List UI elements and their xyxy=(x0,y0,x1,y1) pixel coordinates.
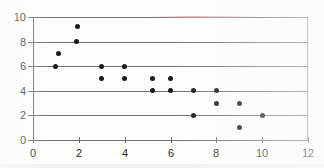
x-tick-2 xyxy=(79,137,80,143)
x-tick-12 xyxy=(308,137,309,143)
data-point xyxy=(214,101,219,106)
data-point xyxy=(260,113,265,118)
y-tick-2 xyxy=(28,115,34,116)
data-point xyxy=(150,76,155,81)
y-tick-label-6: 6 xyxy=(2,61,26,72)
y-tick-8 xyxy=(28,42,34,43)
x-axis-line xyxy=(30,140,309,141)
scatter-plot-figure: 0246810 024681012 xyxy=(0,0,324,168)
x-tick-10 xyxy=(262,137,263,143)
data-point xyxy=(122,64,127,69)
x-tick-label-0: 0 xyxy=(20,148,46,159)
x-tick-4 xyxy=(125,137,126,143)
x-tick-label-12: 12 xyxy=(295,148,321,159)
y-axis-line xyxy=(33,17,34,143)
data-point xyxy=(168,76,173,81)
x-tick-8 xyxy=(216,137,217,143)
y-tick-6 xyxy=(28,66,34,67)
y-tick-label-10: 10 xyxy=(2,12,26,23)
data-point xyxy=(237,101,242,106)
gridline-y-6 xyxy=(33,66,308,67)
x-tick-label-10: 10 xyxy=(249,148,275,159)
x-tick-label-2: 2 xyxy=(66,148,92,159)
data-point xyxy=(237,125,242,130)
gridline-y-10 xyxy=(33,17,308,18)
gridline-y-2 xyxy=(33,115,308,116)
page-edge-band xyxy=(0,164,324,168)
x-tick-label-4: 4 xyxy=(112,148,138,159)
x-tick-6 xyxy=(171,137,172,143)
y-tick-4 xyxy=(28,91,34,92)
x-tick-0 xyxy=(33,137,34,143)
y-tick-label-2: 2 xyxy=(2,110,26,121)
x-tick-label-6: 6 xyxy=(158,148,184,159)
x-tick-label-8: 8 xyxy=(203,148,229,159)
y-tick-10 xyxy=(28,17,34,18)
y-tick-label-8: 8 xyxy=(2,37,26,48)
data-point xyxy=(191,113,196,118)
y-tick-label-4: 4 xyxy=(2,86,26,97)
y-tick-label-0: 0 xyxy=(2,135,26,146)
